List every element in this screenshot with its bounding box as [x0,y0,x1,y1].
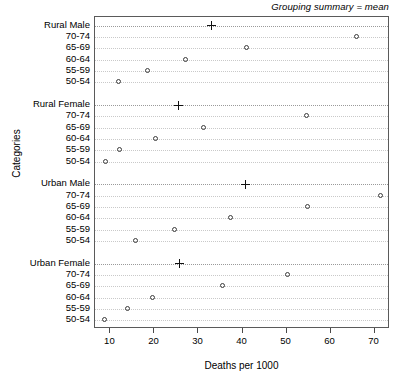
data-point [305,204,310,209]
x-tick-label: 30 [192,335,203,346]
y-category-label: 60-64 [66,292,90,302]
y-group-label: Urban Female [30,258,90,268]
y-category-label: 55-59 [66,145,90,155]
y-category-label: 65-69 [66,281,90,291]
y-category-label: 55-59 [66,303,90,313]
data-point [244,45,249,50]
category-gridline [95,162,388,163]
data-point [285,272,290,277]
category-gridline [95,298,388,299]
data-point [304,113,309,118]
category-gridline [95,275,388,276]
data-point [145,68,150,73]
data-point [220,283,225,288]
chart-subtitle: Grouping summary = mean [271,1,389,12]
category-gridline [95,37,388,38]
y-category-label: 65-69 [66,201,90,211]
summary-marker [175,259,184,268]
y-group-label: Rural Male [44,20,90,30]
x-tick [242,328,243,333]
x-tick-label: 70 [368,335,379,346]
category-gridline [95,196,388,197]
y-category-label: 60-64 [66,54,90,64]
y-group-label: Urban Male [41,179,90,189]
category-gridline [95,286,388,287]
y-category-label: 55-59 [66,224,90,234]
y-category-label: 70-74 [66,31,90,41]
category-gridline [95,230,388,231]
category-gridline [95,320,388,321]
summary-marker [241,180,250,189]
summary-marker [174,101,183,110]
x-axis-title: Deaths per 1000 [94,360,389,371]
category-gridline [95,207,388,208]
data-point [228,215,233,220]
x-tick-label: 60 [324,335,335,346]
x-tick [197,328,198,333]
x-tick-label: 10 [104,335,115,346]
category-gridline [95,139,388,140]
category-gridline [95,82,388,83]
y-category-label: 50-54 [66,77,90,87]
y-category-label: 70-74 [66,190,90,200]
category-gridline [95,218,388,219]
category-gridline [95,116,388,117]
plot-inner [95,17,388,327]
group-gridline [95,105,388,106]
data-point [117,147,122,152]
data-point [133,238,138,243]
data-point [116,79,121,84]
y-axis-tick-labels: Rural Male70-7465-6960-6455-5950-54Rural… [0,16,90,328]
category-gridline [95,241,388,242]
data-point [201,125,206,130]
category-gridline [95,309,388,310]
plot-area [94,16,389,328]
y-category-label: 55-59 [66,65,90,75]
y-category-label: 50-54 [66,235,90,245]
y-category-label: 50-54 [66,315,90,325]
category-gridline [95,48,388,49]
x-axis: 10203040506070 [94,328,389,358]
y-group-label: Rural Female [33,99,90,109]
data-point [354,34,359,39]
data-point [378,193,383,198]
y-category-label: 50-54 [66,156,90,166]
x-tick-label: 20 [148,335,159,346]
data-point [153,136,158,141]
x-tick-label: 50 [280,335,291,346]
data-point [150,295,155,300]
category-gridline [95,60,388,61]
data-point [103,159,108,164]
summary-marker [207,21,216,30]
y-category-label: 60-64 [66,133,90,143]
data-point [125,306,130,311]
y-category-label: 60-64 [66,213,90,223]
y-category-label: 70-74 [66,111,90,121]
x-tick [109,328,110,333]
y-category-label: 70-74 [66,269,90,279]
data-point [183,57,188,62]
data-point [172,227,177,232]
data-point [102,317,107,322]
x-tick [330,328,331,333]
category-gridline [95,128,388,129]
group-gridline [95,26,388,27]
category-gridline [95,71,388,72]
group-gridline [95,264,388,265]
y-category-label: 65-69 [66,43,90,53]
category-gridline [95,150,388,151]
y-category-label: 65-69 [66,122,90,132]
chart-root: Grouping summary = mean Categories Rural… [0,0,401,381]
x-tick-label: 40 [236,335,247,346]
x-tick [153,328,154,333]
x-tick [286,328,287,333]
x-tick [374,328,375,333]
